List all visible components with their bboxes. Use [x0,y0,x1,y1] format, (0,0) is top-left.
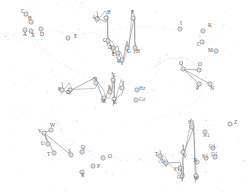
trajectory-plot: CBAXDEA+BFCDEGHRIKLMQOPNFDNLIJMKHzGzVWUT… [0,0,248,192]
marker-l [111,78,115,82]
marker-label-v: V [183,154,187,159]
marker-label-j: J [122,81,124,86]
marker-label-w: W [50,123,55,128]
marker-label-c: C [21,9,25,14]
plot-canvas [0,0,248,192]
marker-label-m: M [208,48,213,53]
marker-label-z: Z [234,120,237,125]
marker-label-d1: D1 [211,152,218,157]
marker-label-n: N [210,86,214,91]
marker-label-u: U [161,159,165,164]
marker-b [104,16,108,20]
marker-label-w: W [194,176,199,181]
marker-label-o: O [108,154,112,159]
marker-label-x: X [193,158,197,163]
marker-label-l: L [113,73,116,78]
marker-gz [134,98,138,102]
marker-label-r: R [81,173,85,178]
marker-label-m: M [101,99,106,104]
marker-w [49,128,53,132]
marker-label-c: C [103,38,107,43]
marker-label-g: G [127,49,131,54]
marker-label-x: X [31,33,35,38]
marker-label-p: P [97,164,100,169]
marker-label-f: F [58,87,61,92]
marker-f [131,16,135,20]
marker-u [46,142,50,146]
marker-label-b1: B1 [188,120,195,125]
marker-label-c1: C1 [209,144,216,149]
marker-label-f: F [131,10,134,15]
marker-label-s: S [68,149,71,154]
marker-label-k: K [208,23,212,28]
marker-q [181,67,185,71]
marker-k [201,29,205,33]
marker-label-a1: A1 [203,133,210,138]
marker-m [214,49,218,53]
marker-label-h: H [136,49,140,54]
marker-q [80,150,84,154]
marker-label-b: B [107,10,111,15]
marker-label-e: E [74,34,77,39]
marker-label-e1: E1 [202,154,208,159]
marker-label-o: O [198,62,202,67]
marker-label-q: Q [179,61,183,66]
marker-label-e: E [112,52,115,57]
marker-label-l: L [197,42,200,47]
marker-label-hz: Hz [139,86,146,91]
marker-j [120,86,124,90]
marker-label-d: D [66,90,70,95]
marker-label-u: U [41,141,45,146]
marker-i [108,90,112,94]
marker-label-n: N [93,77,97,82]
marker-i [178,27,182,31]
marker-e [66,36,70,40]
marker-label-r: R [117,59,121,64]
marker-o [101,156,105,160]
marker-label-t: T [155,152,158,157]
marker-label-f1: F1 [174,167,180,172]
marker-label-gz: Gz [139,97,146,102]
marker-label-i: I [180,21,182,26]
marker-label-d: D [40,32,44,37]
marker-label-t: T [47,152,50,157]
marker-z [228,122,232,126]
marker-label-i: I [108,85,110,90]
marker-v [42,131,46,135]
marker-label-k: K [113,100,117,105]
marker-label-v: V [38,129,42,134]
marker-label-q: Q [81,145,85,150]
marker-label-p: P [196,86,199,91]
marker-o [197,68,201,72]
marker-label-g1: G1 [177,175,184,180]
marker-label-d: D [108,45,112,50]
marker-e [116,51,120,55]
marker-l [200,40,204,44]
marker-b1 [190,125,194,129]
marker-label-b: B [28,16,32,21]
marker-p [91,164,95,168]
marker-t [52,151,56,155]
marker-label-a: A [23,32,27,37]
marker-label-a: A+ [92,15,99,20]
